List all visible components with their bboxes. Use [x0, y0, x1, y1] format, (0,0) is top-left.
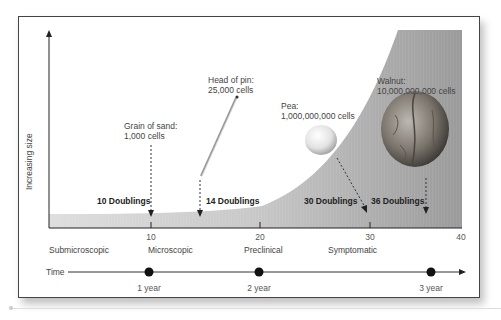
annotation-head-of-pin: Head of pin: 25,000 cells	[208, 75, 254, 95]
x-tick-30: 30	[365, 232, 374, 242]
timeline-label: Time	[46, 267, 65, 277]
annotation-title: Grain of sand:	[124, 121, 177, 131]
annotation-title: Pea:	[281, 101, 355, 111]
timeline	[68, 268, 466, 277]
annotation-grain-of-sand: Grain of sand: 1,000 cells	[124, 121, 177, 141]
annotation-walnut: Walnut: 10,000,000,000 cells	[377, 76, 455, 96]
pea-icon	[305, 125, 337, 155]
timeline-dot-1-year	[145, 268, 154, 277]
annotation-cells: 1,000,000,000 cells	[281, 111, 355, 121]
doublings-36: 36 Doublings	[371, 196, 424, 206]
doublings-10: 10 Doublings	[97, 196, 150, 206]
x-tick-10: 10	[146, 232, 155, 242]
growth-diagram	[0, 0, 501, 320]
annotation-title: Walnut:	[377, 76, 455, 86]
annotation-cells: 10,000,000,000 cells	[377, 86, 455, 96]
stage-symptomatic: Symptomatic	[328, 245, 377, 255]
y-axis-label: Increasing size	[24, 133, 34, 190]
timeline-marker-3-year: 3 year	[419, 283, 443, 293]
doublings-14: 14 Doublings	[206, 196, 259, 206]
timeline-marker-1-year: 1 year	[137, 283, 161, 293]
timeline-arrow-icon	[459, 269, 466, 275]
x-tick-20: 20	[255, 232, 264, 242]
stage-microscopic: Microscopic	[148, 245, 193, 255]
x-tick-40: 40	[456, 232, 465, 242]
stage-preclinical: Preclinical	[244, 245, 283, 255]
walnut-icon	[381, 91, 449, 167]
timeline-marker-2-year: 2 year	[247, 283, 271, 293]
timeline-dot-3-year	[427, 268, 436, 277]
doublings-30: 30 Doublings	[304, 196, 357, 206]
annotation-title: Head of pin:	[208, 75, 254, 85]
annotation-cells: 1,000 cells	[124, 131, 177, 141]
y-axis-arrow-icon	[46, 30, 52, 37]
pin-icon	[201, 95, 239, 176]
annotation-pea: Pea: 1,000,000,000 cells	[281, 101, 355, 121]
stage-submicroscopic: Submicroscopic	[49, 245, 109, 255]
timeline-dot-2-year	[255, 268, 264, 277]
annotation-cells: 25,000 cells	[208, 85, 254, 95]
